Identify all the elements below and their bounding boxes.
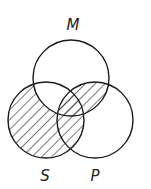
label-m: M xyxy=(67,16,80,34)
venn-diagram: M S P xyxy=(0,0,151,189)
label-s: S xyxy=(40,167,50,185)
label-p: P xyxy=(90,167,100,185)
